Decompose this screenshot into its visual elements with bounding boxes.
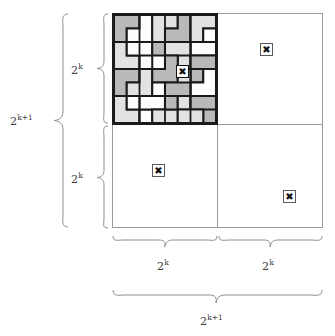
brace-left-top (94, 13, 110, 124)
label-bottom-right: 2k (262, 258, 274, 273)
tromino-deficient-neighbor (152, 56, 178, 83)
brace-bottom-right (218, 234, 323, 250)
label-exponent: k+1 (207, 313, 223, 322)
label-exponent: k+1 (17, 113, 33, 122)
x-glyph: ✖ (178, 67, 186, 77)
tiled-quadrant (112, 13, 218, 125)
label-exponent: k (78, 62, 83, 71)
label-exponent: k (164, 258, 169, 267)
tromino-tiling-svg (114, 15, 216, 123)
brace-left-bottom (94, 125, 110, 229)
figure-canvas: ✖ ✖ ✖ ✖ 2k+1 2k 2k 2k (0, 0, 335, 336)
x-marker-bottom-right-quadrant: ✖ (283, 190, 296, 203)
label-bottom-outer: 2k+1 (200, 313, 223, 328)
brace-left-outer (50, 13, 70, 228)
label-left-bottom: 2k (71, 171, 83, 186)
label-exponent: k (269, 258, 274, 267)
x-marker-top-left-quadrant: ✖ (176, 65, 189, 78)
brace-bottom-outer (112, 288, 323, 306)
x-glyph: ✖ (154, 166, 162, 176)
x-marker-top-right-quadrant: ✖ (260, 43, 273, 56)
label-bottom-left: 2k (157, 258, 169, 273)
x-glyph: ✖ (285, 192, 293, 202)
x-glyph: ✖ (262, 45, 270, 55)
label-exponent: k (78, 171, 83, 180)
label-left-outer: 2k+1 (10, 113, 33, 128)
label-left-top: 2k (71, 62, 83, 77)
x-marker-bottom-left-quadrant: ✖ (152, 164, 165, 177)
brace-bottom-left (112, 234, 218, 250)
